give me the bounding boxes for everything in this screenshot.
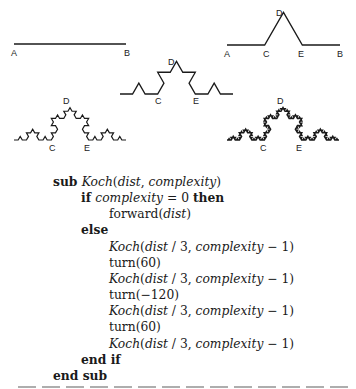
point-label-c: C: [49, 143, 56, 153]
koch-figure-level-2: DCE: [120, 57, 233, 106]
code-identifier: complexity: [196, 337, 264, 351]
point-label-e: E: [296, 143, 302, 153]
code-identifier: complexity: [196, 304, 264, 318]
point-label-e: E: [298, 49, 304, 59]
koch-figure-level-0: AB: [11, 44, 130, 58]
koch-figure-level-1: ACDEB: [224, 8, 343, 59]
code-text: / 3,: [168, 304, 196, 318]
code-identifier: dist: [118, 175, 141, 189]
code-identifier: Koch: [109, 240, 140, 254]
code-identifier: complexity: [149, 175, 217, 189]
code-keyword: else: [81, 222, 108, 237]
code-line: Koch(dist / 3, complexity − 1): [109, 271, 294, 287]
code-text: ,: [141, 175, 149, 189]
point-label-d: D: [63, 96, 70, 106]
code-line: end sub: [53, 368, 107, 384]
point-label-c: C: [260, 143, 267, 153]
point-label-c: C: [263, 49, 270, 59]
point-label-d: D: [277, 96, 284, 106]
koch-figure-level-3: DCE: [14, 96, 126, 153]
code-text: ): [186, 207, 191, 221]
koch-curve-path: [227, 108, 339, 140]
code-keyword: end if: [81, 352, 121, 367]
koch-curve-figures: ABACDEBDCEDCEDCE: [0, 0, 356, 160]
code-line: Koch(dist / 3, complexity − 1): [109, 336, 294, 352]
code-identifier: dist: [145, 304, 168, 318]
code-text: / 3,: [168, 272, 196, 286]
code-identifier: Koch: [109, 337, 140, 351]
caption-cutoff: [18, 383, 348, 389]
code-text: = 0: [163, 191, 193, 205]
code-text: ): [216, 175, 221, 189]
point-label-b: B: [124, 48, 130, 58]
code-identifier: dist: [145, 240, 168, 254]
code-identifier: complexity: [196, 272, 264, 286]
koch-curve-path: [14, 108, 126, 140]
code-line: turn(60): [109, 319, 161, 335]
point-label-e: E: [84, 143, 90, 153]
code-text: − 1): [263, 272, 294, 286]
code-text: − 1): [263, 304, 294, 318]
point-label-e: E: [193, 96, 199, 106]
koch-curve-path: [120, 61, 233, 94]
point-label-d: D: [168, 57, 175, 67]
code-text: turn(60): [109, 320, 161, 334]
code-line: forward(dist): [109, 206, 191, 222]
point-label-a: A: [224, 49, 230, 59]
code-text: − 1): [263, 337, 294, 351]
code-keyword: sub: [53, 174, 82, 189]
koch-curve-path: [227, 12, 340, 45]
code-text: / 3,: [168, 337, 196, 351]
code-text: turn(60): [109, 256, 161, 270]
koch-figure-level-4: DCE: [227, 96, 339, 153]
code-line: end if: [81, 352, 121, 368]
code-line: sub Koch(dist, complexity): [53, 174, 221, 190]
code-identifier: dist: [145, 272, 168, 286]
code-text: / 3,: [168, 240, 196, 254]
code-line: turn(−120): [109, 287, 179, 303]
point-label-c: C: [155, 96, 162, 106]
point-label-a: A: [11, 48, 17, 58]
code-line: else: [81, 222, 108, 238]
code-line: turn(60): [109, 255, 161, 271]
code-identifier: dist: [163, 207, 186, 221]
code-text: forward(: [109, 207, 163, 221]
code-keyword: if: [81, 190, 95, 205]
code-line: if complexity = 0 then: [81, 190, 224, 206]
code-identifier: Koch: [109, 304, 140, 318]
code-line: Koch(dist / 3, complexity − 1): [109, 303, 294, 319]
code-text: − 1): [263, 240, 294, 254]
code-identifier: Koch: [82, 175, 113, 189]
code-text: turn(−120): [109, 288, 179, 302]
point-label-b: B: [337, 49, 343, 59]
code-keyword: then: [193, 190, 224, 205]
code-identifier: Koch: [109, 272, 140, 286]
code-identifier: complexity: [95, 191, 163, 205]
code-keyword: end sub: [53, 368, 107, 383]
point-label-d: D: [276, 8, 283, 18]
code-identifier: dist: [145, 337, 168, 351]
code-identifier: complexity: [196, 240, 264, 254]
code-line: Koch(dist / 3, complexity − 1): [109, 239, 294, 255]
